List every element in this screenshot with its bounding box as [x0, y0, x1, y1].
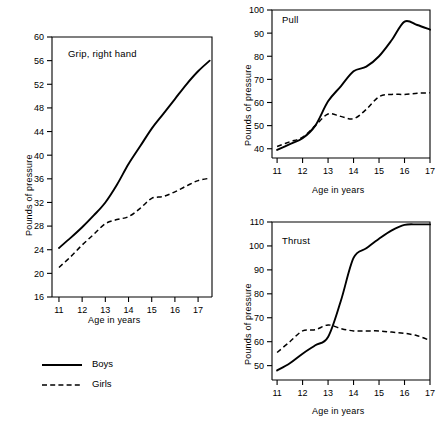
y-tick-label: 100	[249, 5, 264, 15]
y-tick-label: 20	[34, 269, 44, 279]
plot-frame	[272, 10, 430, 158]
y-tick-label: 52	[34, 80, 44, 90]
x-tick-label: 17	[193, 305, 203, 315]
y-tick-label: 36	[34, 174, 44, 184]
y-tick-label: 90	[254, 29, 264, 39]
y-tick-label: 90	[254, 265, 264, 275]
series-line-girls	[277, 325, 430, 353]
x-tick-label: 16	[400, 388, 410, 398]
x-tick-label: 17	[425, 388, 435, 398]
series-line-boys	[277, 224, 430, 370]
x-tick-label: 16	[400, 166, 410, 176]
x-tick-label: 13	[323, 388, 333, 398]
x-tick-label: 11	[272, 388, 281, 398]
chart-panel-thrust: Pounds of pressure Thrust Age in years 5…	[230, 210, 436, 426]
y-tick-label: 50	[254, 121, 264, 131]
figure-strength-by-age: Pounds of pressure Grip, right hand Age …	[0, 0, 436, 426]
x-tick-label: 12	[298, 388, 308, 398]
x-tick-label: 11	[272, 166, 281, 176]
legend-label-boys: Boys	[92, 358, 113, 369]
x-tick-label: 11	[54, 305, 63, 315]
legend-swatches-svg	[40, 356, 200, 396]
y-tick-label: 70	[254, 75, 264, 85]
x-tick-label: 14	[124, 305, 134, 315]
x-tick-label: 12	[77, 305, 87, 315]
x-tick-label: 15	[374, 388, 384, 398]
x-tick-label: 13	[323, 166, 333, 176]
thrust-plot-svg: 506070809010011011121314151617	[230, 210, 436, 426]
x-tick-label: 12	[298, 166, 308, 176]
plot-frame	[272, 222, 430, 380]
x-tick-label: 15	[374, 166, 384, 176]
x-tick-label: 15	[147, 305, 157, 315]
y-tick-label: 40	[254, 144, 264, 154]
y-tick-label: 32	[34, 198, 44, 208]
y-tick-label: 60	[254, 98, 264, 108]
y-tick-label: 70	[254, 313, 264, 323]
x-tick-label: 14	[349, 166, 359, 176]
grip-plot-svg: 16202428323640444852566011121314151617	[0, 0, 230, 340]
y-tick-label: 110	[250, 217, 264, 227]
x-tick-label: 14	[349, 388, 359, 398]
y-tick-label: 40	[34, 151, 44, 161]
y-tick-label: 56	[34, 56, 44, 66]
y-tick-label: 28	[34, 221, 44, 231]
chart-panel-grip: Pounds of pressure Grip, right hand Age …	[0, 0, 230, 340]
y-tick-label: 60	[254, 337, 264, 347]
y-tick-label: 16	[34, 292, 44, 302]
plot-frame	[52, 37, 212, 297]
x-tick-label: 13	[100, 305, 110, 315]
y-tick-label: 50	[254, 361, 264, 371]
chart-panel-pull: Pounds of pressure Pull Age in years 405…	[230, 0, 436, 200]
series-line-girls	[277, 93, 430, 147]
series-line-girls	[59, 178, 210, 267]
y-tick-label: 80	[254, 52, 264, 62]
x-tick-label: 17	[425, 166, 435, 176]
x-tick-label: 16	[170, 305, 180, 315]
y-tick-label: 24	[34, 245, 44, 255]
legend-label-girls: Girls	[92, 378, 112, 389]
y-tick-label: 100	[249, 241, 264, 251]
y-tick-label: 44	[34, 127, 44, 137]
y-tick-label: 48	[34, 103, 44, 113]
series-line-boys	[277, 21, 430, 150]
y-tick-label: 60	[34, 32, 44, 42]
y-tick-label: 80	[254, 289, 264, 299]
figure-legend: Boys Girls	[40, 356, 200, 396]
series-line-boys	[59, 61, 210, 248]
pull-plot-svg: 40506070809010011121314151617	[230, 0, 436, 200]
